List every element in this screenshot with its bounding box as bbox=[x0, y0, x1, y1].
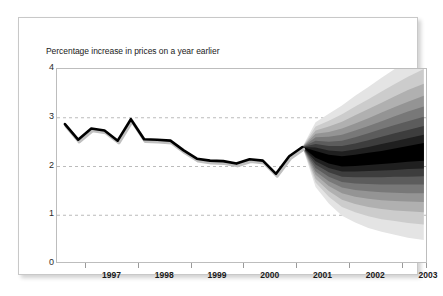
x-tick-mark bbox=[426, 263, 427, 268]
plot-area bbox=[56, 68, 427, 263]
fan-chart-svg bbox=[57, 69, 427, 263]
x-tick-label: 2001 bbox=[313, 270, 332, 280]
fan-bands-group bbox=[302, 69, 423, 240]
x-tick-mark bbox=[402, 263, 403, 268]
x-tick-mark bbox=[191, 263, 192, 268]
y-tick-label: 4 bbox=[42, 62, 54, 72]
history-line bbox=[65, 119, 302, 174]
x-tick-label: 2000 bbox=[260, 270, 279, 280]
screenshot-root: Percentage increase in prices on a year … bbox=[0, 0, 443, 296]
x-tick-mark bbox=[243, 263, 244, 268]
x-tick-mark bbox=[85, 263, 86, 268]
x-tick-label: 2002 bbox=[366, 270, 385, 280]
x-tick-mark bbox=[138, 263, 139, 268]
y-tick-label: 3 bbox=[42, 111, 54, 121]
x-tick-label: 1998 bbox=[155, 270, 174, 280]
y-tick-label: 2 bbox=[42, 160, 54, 170]
x-tick-mark bbox=[296, 263, 297, 268]
chart-card: Percentage increase in prices on a year … bbox=[18, 17, 418, 275]
y-tick-label: 0 bbox=[42, 257, 54, 267]
y-tick-label: 1 bbox=[42, 208, 54, 218]
x-tick-label: 1999 bbox=[207, 270, 226, 280]
x-tick-label: 2003 bbox=[419, 270, 438, 280]
x-tick-mark bbox=[349, 263, 350, 268]
x-axis: 1997199819992000200120022003 bbox=[56, 263, 427, 293]
chart-title: Percentage increase in prices on a year … bbox=[46, 46, 219, 56]
x-tick-label: 1997 bbox=[102, 270, 121, 280]
y-axis: 01234 bbox=[41, 68, 54, 263]
